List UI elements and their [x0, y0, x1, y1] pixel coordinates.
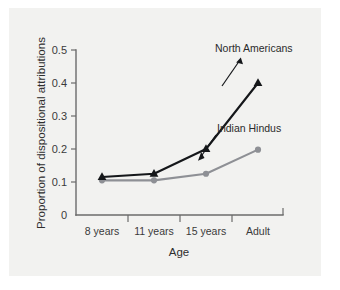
x-category-label-adult: Adult: [246, 225, 270, 237]
annotation-label-north-americans: North Americans: [215, 42, 293, 54]
data-point-north-americans-adult: [254, 78, 263, 86]
y-tick-label-0.4: 0.4: [52, 77, 67, 89]
y-tick-label-0: 0: [61, 209, 67, 221]
x-category-label-8-years: 8 years: [85, 225, 119, 237]
data-point-indian-hindus-11-years: [151, 177, 157, 183]
line-chart: 0.5 0.4 0.3 0.2 0.1 0 8 years 11 years 1…: [9, 8, 321, 276]
chart-panel: 0.5 0.4 0.3 0.2 0.1 0 8 years 11 years 1…: [9, 8, 321, 276]
x-category-label-15-years: 15 years: [186, 225, 226, 237]
data-point-indian-hindus-adult: [255, 147, 261, 153]
data-point-indian-hindus-15-years: [203, 171, 209, 177]
annotation-leader-north-americans: [222, 60, 240, 86]
figure-page: 0.5 0.4 0.3 0.2 0.1 0 8 years 11 years 1…: [0, 0, 340, 290]
x-axis-title: Age: [169, 246, 189, 258]
y-tick-label-0.1: 0.1: [52, 176, 67, 188]
x-category-label-11-years: 11 years: [134, 225, 174, 237]
y-axis-title: Proportion of dispositional attributions: [35, 37, 47, 229]
annotation-label-indian-hindus: Indian Hindus: [217, 122, 281, 134]
y-tick-label-0.2: 0.2: [52, 143, 67, 155]
y-tick-label-0.5: 0.5: [52, 44, 67, 56]
y-tick-label-0.3: 0.3: [52, 110, 67, 122]
